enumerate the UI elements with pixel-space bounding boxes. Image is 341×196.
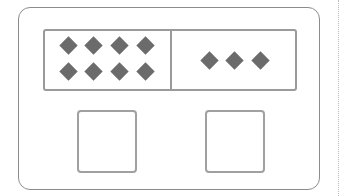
answer-box-left[interactable] <box>77 110 137 173</box>
page-edge-dotted-line <box>338 0 339 196</box>
strip-divider <box>170 29 172 91</box>
answer-box-right[interactable] <box>205 110 265 173</box>
